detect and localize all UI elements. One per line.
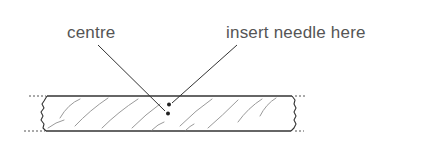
centre-point-dot (166, 112, 170, 116)
leader-lines (98, 45, 237, 111)
extension-lines (24, 96, 306, 131)
board-cross-section (0, 0, 422, 143)
centre-label: centre (67, 24, 115, 41)
needle-point-dot (167, 103, 171, 107)
insert-needle-label: insert needle here (226, 24, 366, 41)
centre-leader-line (98, 45, 165, 111)
needle-insertion-diagram: centre insert needle here (0, 0, 422, 143)
grain-hatch (48, 98, 276, 130)
needle-leader-line (172, 45, 237, 103)
